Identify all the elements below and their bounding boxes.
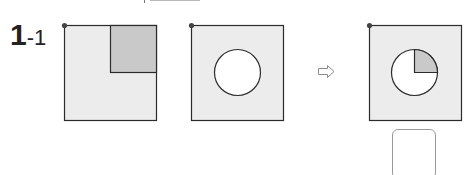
corner-dot-icon bbox=[62, 23, 67, 28]
figure-square-shaded-quarter bbox=[62, 23, 157, 121]
right-arrow-icon bbox=[319, 66, 335, 78]
corner-dot-icon bbox=[367, 23, 372, 28]
answer-input-box[interactable] bbox=[392, 129, 436, 175]
figure-square-circle-shaded-quarter bbox=[367, 23, 462, 121]
figure-square-with-circle bbox=[189, 23, 284, 121]
corner-dot-icon bbox=[189, 23, 194, 28]
